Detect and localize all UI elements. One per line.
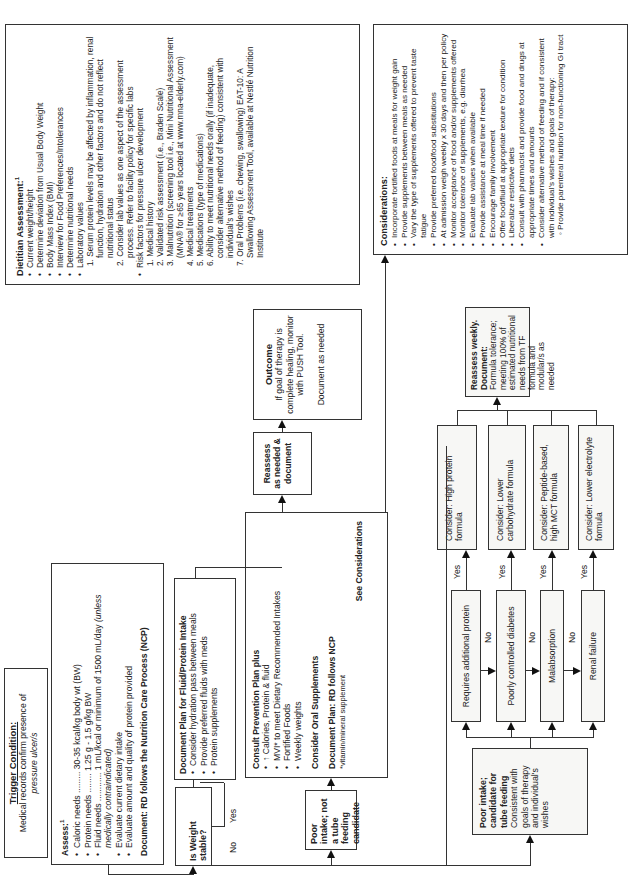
arrow xyxy=(462,722,470,730)
risk-sub-item: 7. Oral Problems (i.e. chewing, swallowi… xyxy=(235,33,265,276)
connector xyxy=(593,730,594,738)
doc-plan-item: Consider hydration pass between meals xyxy=(188,584,198,766)
connector xyxy=(593,558,594,590)
connector xyxy=(530,843,531,866)
arrow xyxy=(327,778,335,786)
arrow xyxy=(488,667,496,675)
assess-item: Fluid needs ............ 1 mL/kcal or mi… xyxy=(93,572,114,848)
doc-plan-item: Provide preferred fluids with meds xyxy=(199,584,209,766)
doc-plan-title: Document Plan for Fluid/Protein Intake xyxy=(178,584,188,774)
consult-doc: Document Plan: RD follows NCP xyxy=(327,521,337,769)
arrow xyxy=(462,550,470,558)
arrow xyxy=(532,667,540,675)
connector xyxy=(552,730,553,738)
weight-no-label: No xyxy=(228,842,238,853)
document-plan-fluid-box: Document Plan for Fluid/Protein Intake C… xyxy=(174,578,236,780)
consider-box-malabsorption: Consider: Peptide-based, high MCT formul… xyxy=(533,425,569,550)
consult-item: MVI* to meet Dietary Recommended Intakes xyxy=(272,521,282,761)
consider-box-diabetes: Consider: Lower carbohydrate formula xyxy=(488,425,526,550)
consideration-item: Liberalize restrictive diets xyxy=(507,33,517,238)
tube-feeding-candidate-box: Poor intake; candidate for tube feeding … xyxy=(472,748,588,835)
risk-sub-item: 5. Medications (type of medications) xyxy=(195,33,205,276)
yes-label: Yes xyxy=(579,565,589,579)
arrow xyxy=(548,550,556,558)
assess-item: Caloric needs ......... 30-35 kcal/kg bo… xyxy=(72,572,82,848)
assess-title: Assess: xyxy=(60,823,70,856)
consideration-item: Evaluate lab values when available xyxy=(468,33,478,238)
connector xyxy=(212,865,446,866)
connector xyxy=(564,670,573,671)
connector xyxy=(457,411,458,425)
lab-sub-item: 2. Consider lab values as one aspect of … xyxy=(115,33,135,276)
arrow xyxy=(526,835,534,843)
considerations-title: Considerations: xyxy=(380,33,390,246)
consideration-item: Offer food/fluid at appropriate texture … xyxy=(498,33,508,238)
outcome-title: Outcome xyxy=(264,315,274,414)
consider-box-renal: Consider: Lower electrolyte formula xyxy=(578,425,614,550)
consideration-item: Monitor acceptance of food and/or supple… xyxy=(449,33,459,238)
connector xyxy=(385,263,386,512)
arrow xyxy=(493,397,501,405)
dietitian-item: Body Mass Index (BMI) xyxy=(45,33,55,268)
outcome-doc: Document as needed xyxy=(316,315,326,414)
connector xyxy=(282,428,283,432)
arrow xyxy=(381,255,389,263)
consult-footnote: *vitamin/mineral supplement xyxy=(338,521,348,769)
assess-item: Protein needs ........ 1.25 g - 1.5 g/kg… xyxy=(83,572,93,848)
consideration-item: Provide assistance at meal time if neede… xyxy=(478,33,488,238)
arrow xyxy=(507,722,515,730)
risk-sub-item: 4. Medical treatments xyxy=(185,33,195,276)
arrow xyxy=(548,722,556,730)
no-label: No xyxy=(527,632,537,643)
connector xyxy=(481,670,488,671)
assess-sup: 1 xyxy=(59,820,65,823)
arrow xyxy=(278,420,286,428)
trigger-title: Trigger Condition: xyxy=(8,674,18,852)
connector xyxy=(200,782,224,783)
consideration-sub: ◦ Provide parenteral nutrition for non-f… xyxy=(556,33,566,246)
assess-item: Evaluate current dietary intake xyxy=(114,572,124,848)
condition-box-diabetes: Poorly controlled diabetes xyxy=(496,590,526,722)
connector xyxy=(224,783,225,827)
arrow xyxy=(327,850,335,858)
no-label: No xyxy=(567,632,577,643)
connector xyxy=(331,858,332,866)
connector xyxy=(282,503,283,512)
risk-title: Risk factors for pressure ulcer developm… xyxy=(135,33,145,268)
risk-sub-item: 1. Medical history xyxy=(145,33,155,276)
see-considerations: See Considerations xyxy=(354,521,364,769)
trigger-condition-box: Trigger Condition: Medical records confi… xyxy=(4,668,48,858)
reassess-box: Reassess as needed & document xyxy=(253,432,312,495)
lab-sub-item: 1. Serum protein levels may be affected … xyxy=(85,33,115,276)
connector xyxy=(551,411,552,425)
condition-box-malabsorption: Malabsorption xyxy=(540,590,564,722)
condition-box-renal: Renal failure xyxy=(581,590,605,722)
consult-title: Consult Prevention Plan plus xyxy=(251,521,261,769)
reassess-weekly-text: Formula tolerance; meeting 100% of estim… xyxy=(489,314,556,390)
connector xyxy=(331,786,332,790)
consult-item: ↑ Calories, Protein & fluid xyxy=(261,521,271,761)
consult-item: Fortified Foods xyxy=(282,521,292,761)
connector xyxy=(108,865,109,875)
connector xyxy=(466,730,467,738)
consideration-item: Encourage family involvement xyxy=(488,33,498,238)
connector xyxy=(511,730,512,738)
connector xyxy=(511,558,512,590)
trigger-text-italic: pressure ulcer/s xyxy=(29,674,39,852)
condition-box-protein: Requires additional protein xyxy=(451,590,481,722)
connector xyxy=(457,410,597,411)
weight-stable-decision: Is Weight stable? xyxy=(175,787,212,866)
consider-box-protein: Consider: High protein formula xyxy=(437,425,477,550)
consult-item: Weekly weights xyxy=(293,521,303,761)
dietitian-item: Determine deviation from Usual Body Weig… xyxy=(35,33,45,268)
connector xyxy=(195,568,196,578)
considerations-box: Considerations: Incorporate fortified fo… xyxy=(373,24,628,255)
arrow xyxy=(573,667,581,675)
consideration-item: At admission weigh weekly x 30 days and … xyxy=(439,33,449,238)
consideration-item: Provide preferred food/food substitution… xyxy=(429,33,439,238)
connector xyxy=(596,411,597,425)
poor-intake-not-tube-box: Poor intake; not a tube feeding candidat… xyxy=(305,790,357,850)
arrow xyxy=(589,722,597,730)
dietitian-item: Determine nutritional needs xyxy=(65,33,75,268)
consideration-item: Vary the type of supplements offered to … xyxy=(409,33,429,238)
